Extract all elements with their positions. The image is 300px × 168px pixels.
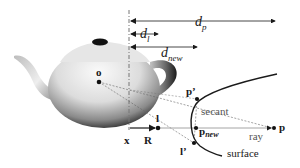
point-pnew <box>194 126 198 130</box>
point-p <box>272 126 276 130</box>
point-o <box>97 80 102 85</box>
label-lprime: l’ <box>180 145 187 157</box>
point-lprime <box>192 141 196 145</box>
label-dl: dl <box>140 26 150 44</box>
label-x: x <box>124 134 130 146</box>
label-pprime: p’ <box>186 85 196 97</box>
label-R: R <box>144 134 153 146</box>
teapot-knob <box>92 39 108 46</box>
label-surface: surface <box>227 147 259 159</box>
label-ray: ray <box>249 130 264 142</box>
label-secant: secant <box>201 105 228 117</box>
label-pnew: pnew <box>199 125 219 139</box>
label-dnew: dnew <box>161 45 183 63</box>
distance-dp: dp <box>130 14 275 32</box>
label-dp: dp <box>195 14 207 32</box>
label-l: l <box>156 112 159 124</box>
diagram-canvas: dp dl dnew o x R l p’ pnew l’ p <box>0 0 300 168</box>
teapot-lid <box>60 42 150 62</box>
point-l <box>156 126 161 131</box>
distance-dl: dl <box>130 26 158 44</box>
label-p: p <box>279 121 285 133</box>
teapot-image <box>14 39 177 129</box>
label-o: o <box>96 66 102 78</box>
teapot-spout <box>14 56 52 100</box>
point-pprime <box>195 97 199 101</box>
